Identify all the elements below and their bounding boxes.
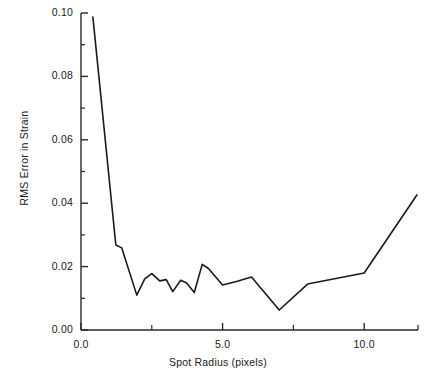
data-series-line (93, 17, 417, 310)
x-axis-ticks (81, 323, 418, 330)
x-axis-tick-label: 10.0 (344, 338, 384, 350)
y-axis-tick-label: 0.08 (35, 69, 73, 81)
chart-figure: 0.000.020.040.060.080.10 0.05.010.0 Spot… (0, 0, 436, 384)
y-axis-tick-label: 0.10 (35, 6, 73, 18)
x-axis-tick-label: 5.0 (203, 338, 243, 350)
axis-lines (81, 13, 418, 330)
x-axis-title: Spot Radius (pixels) (0, 356, 436, 368)
x-axis-tick-label: 0.0 (61, 338, 101, 350)
y-axis-title: RMS Error in Strain (18, 78, 30, 238)
y-axis-tick-label: 0.04 (35, 196, 73, 208)
y-axis-tick-label: 0.00 (35, 323, 73, 335)
y-axis-tick-label: 0.02 (35, 260, 73, 272)
y-axis-ticks (81, 13, 88, 330)
y-axis-tick-label: 0.06 (35, 133, 73, 145)
